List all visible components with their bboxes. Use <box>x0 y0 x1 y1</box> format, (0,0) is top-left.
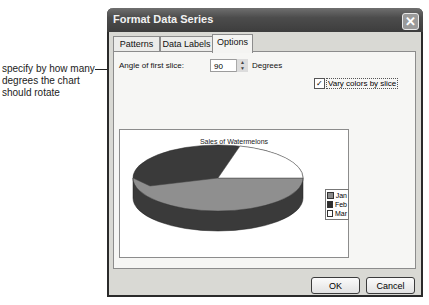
tab-data-labels[interactable]: Data Labels <box>160 36 213 52</box>
angle-spinner[interactable]: ▲ ▼ <box>236 59 248 72</box>
close-icon[interactable]: ✕ <box>402 13 419 30</box>
options-panel: Angle of first slice: 90 ▲ ▼ Degrees ✓ V… <box>113 51 416 269</box>
title-bar[interactable]: Format Data Series ✕ <box>107 8 423 32</box>
vary-colors-label[interactable]: Vary colors by slice <box>326 78 398 89</box>
format-data-series-dialog: Format Data Series ✕ Patterns Data Label… <box>107 8 423 297</box>
tab-patterns[interactable]: Patterns <box>113 36 160 52</box>
legend-item-mar: Mar <box>327 209 347 218</box>
spin-down-icon[interactable]: ▼ <box>237 65 248 71</box>
legend-label: Feb <box>335 201 347 208</box>
cancel-button[interactable]: Cancel <box>366 277 415 294</box>
angle-label: Angle of first slice: <box>119 61 184 70</box>
dialog-title: Format Data Series <box>113 13 213 25</box>
legend-swatch <box>327 192 334 199</box>
legend-swatch <box>327 210 333 217</box>
vary-colors-checkbox[interactable]: ✓ <box>314 78 325 89</box>
chart-legend: Jan Feb Mar <box>325 189 349 220</box>
chart-preview: Sales of Watermelons Jan Feb Mar <box>119 129 349 258</box>
legend-label: Mar <box>335 210 347 217</box>
tab-options[interactable]: Options <box>212 34 253 53</box>
legend-item-jan: Jan <box>327 191 347 200</box>
pie-chart-3d <box>120 130 350 259</box>
degrees-label: Degrees <box>252 61 282 70</box>
legend-swatch <box>327 201 333 208</box>
legend-label: Jan <box>336 192 347 199</box>
legend-item-feb: Feb <box>327 200 347 209</box>
ok-button[interactable]: OK <box>311 277 360 294</box>
